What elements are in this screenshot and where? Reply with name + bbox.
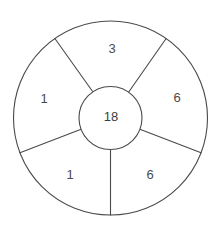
wheel-diagram: 3 6 6 1 1 18 <box>0 0 221 231</box>
wheel-diagram-canvas: 3 6 6 1 1 18 <box>0 0 221 231</box>
sector-label-top: 3 <box>108 41 115 56</box>
sector-label-right: 6 <box>173 90 180 105</box>
sector-label-bottom-left: 1 <box>66 167 73 182</box>
hub-label: 18 <box>104 109 118 124</box>
hub-label-group: 18 <box>104 109 118 124</box>
sector-label-left: 1 <box>40 91 47 106</box>
sector-label-bottom-right: 6 <box>146 167 153 182</box>
